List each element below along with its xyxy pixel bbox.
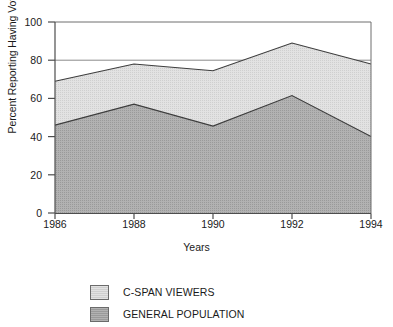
legend-item-general-population: GENERAL POPULATION [90, 303, 244, 325]
chart-legend: C-SPAN VIEWERS GENERAL POPULATION [90, 281, 244, 325]
y-tick-label-0: 0 [8, 208, 42, 218]
legend-swatch-cspan-viewers [90, 285, 109, 300]
y-tick-marks [48, 22, 55, 213]
legend-label-cspan-viewers: C-SPAN VIEWERS [123, 286, 215, 298]
legend-item-cspan-viewers: C-SPAN VIEWERS [90, 281, 244, 303]
x-tick-label-1990: 1990 [183, 219, 243, 230]
x-axis-title-text: Years [183, 241, 209, 253]
x-tick-label-1992: 1992 [262, 219, 322, 230]
x-tick-label-1988: 1988 [104, 219, 164, 230]
x-tick-label-1986: 1986 [25, 219, 85, 230]
chart-plot-area [0, 0, 393, 327]
legend-swatch-general-population [90, 307, 109, 322]
y-tick-label-20: 20 [8, 170, 42, 180]
y-axis-title: Percent Reporting Having Voted [5, 0, 19, 160]
x-axis-title: Years [0, 241, 393, 253]
legend-label-general-population: GENERAL POPULATION [123, 308, 244, 320]
area-chart: 100 80 60 40 20 0 1986 1988 1990 1992 19… [0, 0, 393, 327]
x-tick-label-1994: 1994 [341, 219, 393, 230]
